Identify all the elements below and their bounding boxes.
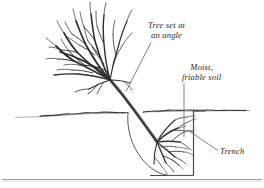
bottom-rule	[2, 180, 262, 182]
ground-line	[15, 112, 128, 117]
diagram-canvas	[0, 0, 264, 188]
planting-diagram: Tree set at an angle Moist, friable soil…	[0, 0, 264, 188]
label-tree-set-at-an-angle: Tree set at an angle	[148, 20, 185, 40]
tree-roots	[154, 116, 196, 174]
label-moist-friable-soil: Moist, friable soil	[182, 62, 221, 82]
label-tree-angle-line1: Tree set at	[148, 20, 185, 30]
label-tree-angle-line2: an angle	[148, 30, 185, 40]
label-moist-soil-line2: friable soil	[182, 72, 221, 82]
tree-canopy	[46, 2, 132, 94]
leader-tree-angle	[126, 43, 151, 92]
label-moist-soil-line1: Moist,	[182, 62, 221, 72]
leader-lines	[126, 43, 218, 151]
tree-trunk	[111, 80, 159, 143]
label-trench: Trench	[220, 146, 244, 156]
